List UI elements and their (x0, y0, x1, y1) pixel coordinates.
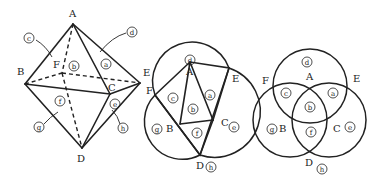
svg-text:e: e (348, 124, 352, 132)
svg-text:c: c (27, 35, 31, 43)
svg-text:g: g (270, 126, 275, 134)
diagram-canvas: A B F C E D a b c d e f g h A E F B C D … (0, 0, 390, 181)
svg-text:h: h (121, 125, 126, 133)
vertex-label-C: C (108, 82, 116, 93)
region-marker-g: g (267, 124, 277, 134)
region-marker-a: a (205, 90, 215, 100)
region-marker-g: g (34, 122, 44, 132)
svg-text:f: f (59, 98, 63, 106)
vertex-label-D: D (77, 153, 85, 164)
svg-text:e: e (232, 124, 236, 132)
region-marker-e: e (345, 122, 355, 132)
region-marker-c: c (24, 33, 34, 43)
edge-EC (213, 68, 229, 120)
region-marker-b: b (305, 102, 315, 112)
svg-text:b: b (308, 104, 313, 112)
svg-text:g: g (37, 124, 42, 132)
vertex-label-B: B (17, 66, 24, 77)
svg-text:b: b (191, 106, 196, 114)
svg-text:d: d (305, 59, 310, 67)
region-marker-d: d (302, 57, 312, 67)
svg-text:f: f (196, 130, 200, 138)
vertex-label-A: A (68, 8, 77, 19)
region-marker-h: h (317, 164, 327, 174)
edge-BC (25, 84, 110, 94)
edge-BC (180, 120, 213, 124)
region-marker-f: f (55, 96, 65, 106)
region-marker-c: c (281, 88, 291, 98)
svg-text:c: c (171, 95, 175, 103)
vertex-label-C: C (221, 117, 229, 128)
region-marker-e: e (110, 99, 120, 109)
svg-text:a: a (104, 61, 108, 69)
svg-text:e: e (113, 101, 117, 109)
venn-circle-right (292, 83, 366, 157)
region-marker-c: c (168, 93, 178, 103)
vertex-label-E: E (353, 73, 360, 84)
venn-figure: A E F B C D a b c d e f g h (253, 49, 366, 174)
svg-text:b: b (72, 63, 77, 71)
region-marker-g: g (152, 124, 162, 134)
region-marker-a: a (328, 88, 338, 98)
octahedron-figure: A B F C E D a b c d e f g h (17, 8, 150, 164)
svg-text:a: a (208, 92, 212, 100)
vertex-label-B: B (279, 123, 286, 134)
svg-text:g: g (155, 126, 160, 134)
vertex-label-D: D (305, 157, 313, 168)
region-marker-e: e (229, 122, 239, 132)
edge-CD (200, 120, 213, 155)
region-marker-d: d (185, 55, 195, 65)
svg-text:f: f (310, 129, 314, 137)
region-marker-f: f (306, 127, 316, 137)
vertex-label-D: D (196, 160, 204, 171)
vertex-label-F: F (146, 85, 153, 96)
region-marker-b: b (188, 104, 198, 114)
circle-right-arc (200, 68, 260, 157)
region-marker-a: a (101, 59, 111, 69)
vertex-label-A: A (305, 71, 314, 82)
svg-text:a: a (331, 90, 335, 98)
svg-text:h: h (209, 164, 214, 172)
vertex-label-F: F (262, 75, 269, 86)
region-marker-b: b (69, 61, 79, 71)
edge-BF-hidden (25, 73, 62, 84)
net-circles-figure: A E F B C D a b c d e f g h (144, 42, 260, 172)
region-marker-h: h (206, 162, 216, 172)
svg-text:d: d (188, 57, 193, 65)
svg-text:h: h (320, 166, 325, 174)
vertex-label-E: E (143, 67, 150, 78)
leader-d (100, 33, 126, 52)
vertex-label-C: C (333, 123, 341, 134)
vertex-label-F: F (53, 59, 60, 70)
region-marker-h: h (118, 123, 128, 133)
venn-circle-left (253, 83, 327, 157)
svg-text:d: d (130, 29, 135, 37)
vertex-label-B: B (166, 123, 173, 134)
svg-text:c: c (284, 90, 288, 98)
vertex-label-E: E (232, 73, 239, 84)
vertex-label-A: A (185, 66, 194, 77)
region-marker-f: f (192, 128, 202, 138)
region-marker-d: d (127, 27, 137, 37)
